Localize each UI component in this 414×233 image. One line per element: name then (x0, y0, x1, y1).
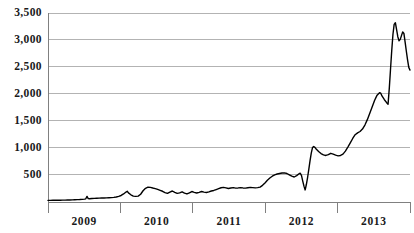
chart-plot-area (0, 0, 414, 233)
axis-lines (48, 13, 410, 213)
x-axis-tick-label: 2010 (122, 216, 192, 228)
y-axis-tick-label: 1,000 (0, 142, 42, 154)
data-series-line (48, 23, 410, 201)
x-axis-tick-label: 2011 (194, 216, 264, 228)
x-axis-tick-label: 2009 (49, 216, 119, 228)
line-chart: 5001,0001,5002,0002,5003,0003,500 200920… (0, 0, 414, 233)
y-axis-tick-label: 2,000 (0, 88, 42, 100)
y-axis-tick-label: 2,500 (0, 61, 42, 73)
x-axis-tick-label: 2013 (339, 216, 409, 228)
x-axis-tick-label: 2012 (266, 216, 336, 228)
y-axis-tick-label: 500 (0, 169, 42, 181)
y-axis-tick-label: 3,000 (0, 34, 42, 46)
x-axis-ticks (120, 202, 337, 213)
gridlines (48, 13, 410, 175)
y-axis-tick-label: 3,500 (0, 7, 42, 19)
y-axis-tick-label: 1,500 (0, 115, 42, 127)
